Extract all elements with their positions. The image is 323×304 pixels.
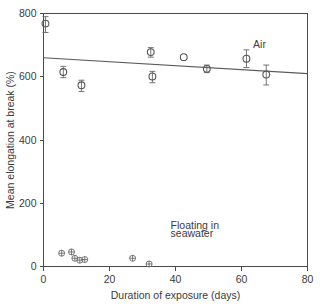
y-tick-label: 600 [19, 70, 37, 82]
y-axis-title: Mean elongation at break (%) [4, 71, 16, 209]
y-tick-label: 200 [19, 197, 37, 209]
chart-figure: 0200400600800020406080 Duration of expos… [0, 0, 323, 304]
tick-labels: 0200400600800020406080 [19, 7, 314, 284]
x-tick-label: 0 [41, 273, 47, 285]
x-tick-label: 20 [104, 273, 116, 285]
x-tick-label: 60 [236, 273, 248, 285]
y-tick-label: 800 [19, 7, 37, 19]
annotation-air: Air [253, 38, 266, 50]
x-tick-label: 40 [170, 273, 182, 285]
annotation-seawater-line2: seawater [171, 227, 214, 239]
y-tick-label: 400 [19, 134, 37, 146]
y-tick-label: 0 [31, 260, 37, 272]
x-axis-title: Duration of exposure (days) [111, 289, 241, 301]
scatter-plot: 0200400600800020406080 Duration of expos… [0, 0, 323, 304]
series-seawater [59, 249, 152, 267]
series-air [42, 17, 270, 92]
data-point-air [180, 54, 187, 61]
x-tick-label: 80 [302, 273, 314, 285]
